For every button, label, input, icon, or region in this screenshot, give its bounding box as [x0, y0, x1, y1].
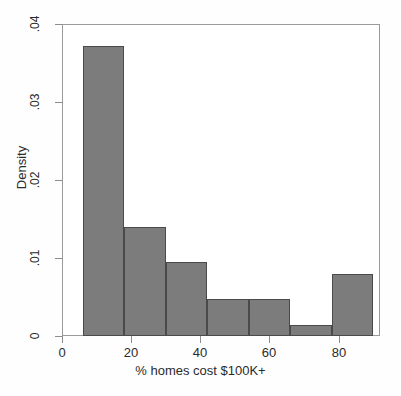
histogram-bar: [83, 46, 124, 336]
y-axis-tick-label-wrap: .04: [22, 17, 48, 31]
y-axis-tick: [55, 258, 62, 259]
y-axis-tick-label-wrap: .03: [22, 95, 48, 109]
histogram-bar: [290, 325, 331, 336]
histogram-figure: .04.03.02.010 020406080 % homes cost $10…: [0, 0, 401, 396]
y-axis-tick-label-wrap: 0: [22, 329, 48, 343]
x-axis-tick: [269, 336, 270, 343]
x-axis-tick-label: 20: [111, 345, 151, 360]
y-axis-tick-label-wrap: .01: [22, 251, 48, 265]
x-axis-tick-label: 40: [180, 345, 220, 360]
y-axis-title-wrap: Density: [0, 160, 66, 176]
y-axis-tick-label: 0: [28, 323, 42, 349]
histogram-bar: [124, 227, 165, 336]
x-axis-tick: [131, 336, 132, 343]
y-axis-tick: [55, 102, 62, 103]
histogram-bar: [332, 274, 373, 336]
x-axis-tick-label: 60: [249, 345, 289, 360]
y-axis-tick: [55, 24, 62, 25]
y-axis-tick-label: .04: [28, 11, 42, 37]
x-axis-tick: [339, 336, 340, 343]
histogram-bar: [166, 262, 207, 336]
bars-layer: [62, 24, 380, 336]
y-axis-tick: [55, 180, 62, 181]
y-axis-tick-label: .03: [28, 89, 42, 115]
y-axis-title: Density: [14, 123, 29, 213]
x-axis-tick: [62, 336, 63, 343]
x-axis-tick: [200, 336, 201, 343]
histogram-bar: [249, 299, 290, 336]
histogram-bar: [207, 299, 248, 336]
x-axis-tick-label: 80: [319, 345, 359, 360]
x-axis-title: % homes cost $100K+: [0, 363, 401, 378]
x-axis-tick-label: 0: [42, 345, 82, 360]
y-axis-tick: [55, 336, 62, 337]
y-axis-tick-label: .01: [28, 245, 42, 271]
